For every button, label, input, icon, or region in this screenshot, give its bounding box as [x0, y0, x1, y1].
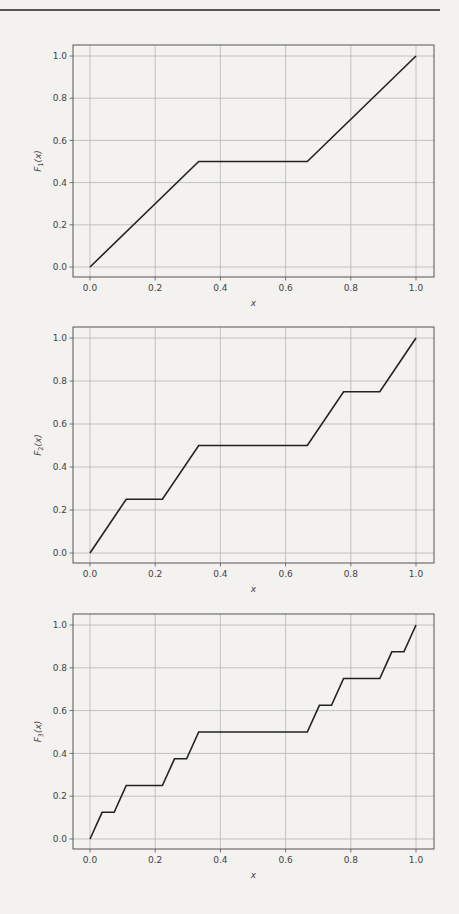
plot-f3-svg: 0.00.20.40.60.81.00.00.20.40.60.81.0xF3(… [0, 0, 459, 914]
y-tick-label: 0.4 [53, 749, 68, 759]
x-tick-label: 0.0 [83, 855, 98, 865]
x-tick-label: 0.2 [148, 855, 162, 865]
y-tick-label: 0.8 [53, 663, 68, 673]
x-tick-label: 0.8 [344, 855, 359, 865]
x-tick-label: 0.4 [213, 855, 228, 865]
data-line [90, 625, 416, 839]
y-tick-label: 0.0 [53, 834, 68, 844]
x-axis-label: x [250, 870, 257, 880]
x-tick-label: 1.0 [409, 855, 424, 865]
x-axis-ticks: 0.00.20.40.60.81.0 [83, 849, 424, 865]
y-tick-label: 1.0 [53, 620, 68, 630]
y-tick-label: 0.2 [53, 791, 67, 801]
y-tick-label: 0.6 [53, 706, 68, 716]
plot-f3: 0.00.20.40.60.81.00.00.20.40.60.81.0xF3(… [0, 0, 459, 914]
x-tick-label: 0.6 [278, 855, 293, 865]
y-axis-ticks: 0.00.20.40.60.81.0 [53, 620, 73, 844]
y-axis-label: F3(x) [33, 721, 45, 743]
